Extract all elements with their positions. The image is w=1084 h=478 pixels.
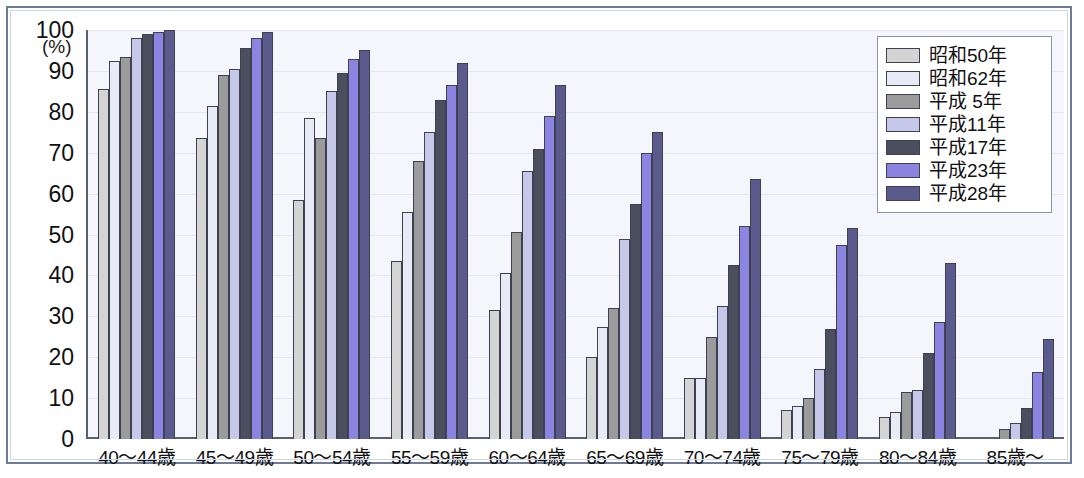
bar (207, 106, 218, 439)
bar (945, 263, 956, 439)
bar (586, 357, 597, 439)
x-axis-tick-labels: 40〜44歳45〜49歳50〜54歳55〜59歳60〜64歳65〜69歳70〜7… (88, 442, 1064, 469)
x-axis-tick: 45〜49歳 (186, 442, 284, 469)
y-axis-tick: 70 (48, 139, 74, 166)
legend-item[interactable]: 昭和62年 (886, 67, 1043, 90)
bar (522, 171, 533, 439)
legend-swatch (886, 163, 920, 178)
x-axis-tick: 60〜64歳 (478, 442, 576, 469)
bar (630, 204, 641, 439)
bar-group (283, 30, 381, 439)
x-axis-tick: 75〜79歳 (771, 442, 869, 469)
bar (424, 132, 435, 439)
bar (750, 179, 761, 439)
bar (706, 337, 717, 439)
bar (717, 306, 728, 439)
bar (240, 48, 251, 439)
bar (229, 69, 240, 439)
bar (1021, 408, 1032, 439)
bar (293, 200, 304, 439)
y-axis-tick: 30 (48, 303, 74, 330)
legend-item[interactable]: 平成11年 (886, 113, 1043, 136)
legend-swatch (886, 186, 920, 201)
y-axis-tick: 80 (48, 98, 74, 125)
legend-label: 平成11年 (929, 115, 1006, 134)
bar (120, 57, 131, 439)
y-axis-tick: 60 (48, 180, 74, 207)
bar (315, 138, 326, 439)
x-axis-tick: 70〜74歳 (674, 442, 772, 469)
bar (879, 417, 890, 439)
bar (999, 429, 1010, 439)
bar (934, 322, 945, 439)
bar (836, 245, 847, 439)
bar (555, 85, 566, 439)
bar-group (576, 30, 674, 439)
bar (251, 38, 262, 439)
chart-legend: 昭和50年昭和62年平成 5年平成11年平成17年平成23年平成28年 (877, 36, 1052, 213)
bar-group (186, 30, 284, 439)
y-axis-tick: 50 (48, 221, 74, 248)
legend-item[interactable]: 平成23年 (886, 159, 1043, 182)
bar (446, 85, 457, 439)
bar (901, 392, 912, 439)
legend-swatch (886, 117, 920, 132)
chart-page: (%) 1009080706050403020100 40〜44歳45〜49歳5… (0, 0, 1084, 478)
legend-item[interactable]: 平成28年 (886, 182, 1043, 205)
legend-label: 平成28年 (929, 184, 1007, 203)
bar (304, 118, 315, 439)
bar-group (88, 30, 186, 439)
bar (218, 75, 229, 439)
legend-label: 平成17年 (929, 138, 1007, 157)
legend-label: 昭和50年 (929, 46, 1007, 65)
bar (109, 61, 120, 439)
bar (923, 353, 934, 439)
legend-swatch (886, 71, 920, 86)
bar (803, 398, 814, 439)
bar (739, 226, 750, 439)
bar (890, 412, 901, 439)
bar (1010, 423, 1021, 439)
bar (98, 89, 109, 439)
legend-item[interactable]: 昭和50年 (886, 44, 1043, 67)
legend-label: 平成23年 (929, 161, 1007, 180)
x-axis-tick: 50〜54歳 (283, 442, 381, 469)
y-axis-tick: 20 (48, 344, 74, 371)
legend-item[interactable]: 平成17年 (886, 136, 1043, 159)
bar-group (381, 30, 479, 439)
bar (544, 116, 555, 439)
bar (359, 50, 370, 439)
legend-item[interactable]: 平成 5年 (886, 90, 1043, 113)
bar (814, 369, 825, 439)
bar (457, 63, 468, 439)
bar (608, 308, 619, 439)
bar-group (478, 30, 576, 439)
x-axis-tick: 80〜84歳 (869, 442, 967, 469)
bar (413, 161, 424, 439)
bar (652, 132, 663, 439)
y-axis-tick: 10 (48, 385, 74, 412)
bar (619, 239, 630, 439)
bar (597, 327, 608, 439)
legend-swatch (886, 48, 920, 63)
bar (142, 34, 153, 439)
bar (792, 406, 803, 439)
legend-label: 昭和62年 (929, 69, 1007, 88)
bar (262, 32, 273, 439)
bar (500, 273, 511, 439)
bar (847, 228, 858, 439)
y-axis-tick: 100 (36, 17, 74, 44)
bar (728, 265, 739, 439)
chart-frame: (%) 1009080706050403020100 40〜44歳45〜49歳5… (6, 6, 1072, 464)
bar (489, 310, 500, 439)
x-axis-tick: 40〜44歳 (88, 442, 186, 469)
bar (391, 261, 402, 439)
bar (912, 390, 923, 439)
bar (402, 212, 413, 439)
bar (348, 59, 359, 439)
bar (164, 30, 175, 439)
bar-group (771, 30, 869, 439)
bar (131, 38, 142, 439)
legend-swatch (886, 140, 920, 155)
x-axis-tick: 85歳〜 (966, 442, 1064, 469)
